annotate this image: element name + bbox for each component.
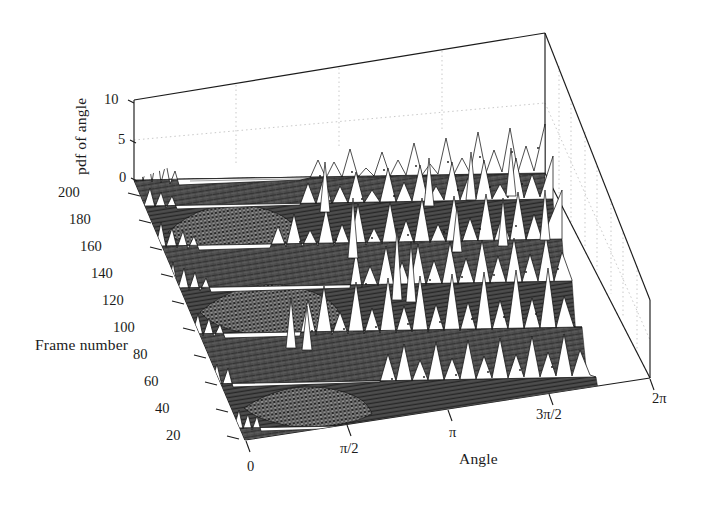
ztick-label-0: 0	[119, 169, 126, 186]
ztick-label-5: 5	[118, 131, 125, 148]
ytick-label-200: 200	[58, 184, 80, 201]
plot-canvas	[0, 0, 713, 508]
ytick-label-60: 60	[144, 373, 159, 390]
xtick-label-3pi-2: 3π/2	[536, 406, 562, 423]
xtick-label-2pi: 2π	[652, 390, 667, 407]
yaxis-title: Frame number	[35, 336, 128, 354]
ytick-label-100: 100	[113, 319, 135, 336]
ytick-label-140: 140	[91, 265, 113, 282]
ytick-label-160: 160	[80, 238, 102, 255]
zaxis-title: pdf of angle	[72, 98, 90, 175]
ztick-label-10: 10	[104, 91, 119, 108]
ytick-label-180: 180	[69, 211, 91, 228]
xaxis-title: Angle	[459, 450, 498, 468]
ytick-label-40: 40	[155, 400, 170, 417]
xtick-label-0: 0	[247, 458, 254, 475]
xtick-label-pi: π	[449, 424, 456, 441]
ytick-label-80: 80	[133, 346, 148, 363]
xtick-label-pi-2: π/2	[340, 440, 359, 457]
ytick-label-20: 20	[166, 427, 181, 444]
ytick-label-120: 120	[102, 292, 124, 309]
figure-3d-surface-plot: pdf of angle 10 5 0 Frame number 200 180…	[0, 0, 713, 508]
